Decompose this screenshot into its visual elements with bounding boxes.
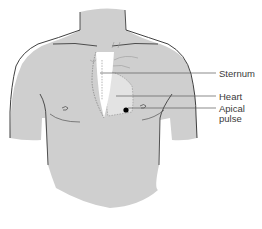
- sternum-label: Sternum: [219, 69, 255, 79]
- heart-label: Heart: [219, 92, 242, 102]
- apical-pulse-dot: [123, 107, 128, 112]
- apical-pulse-label: Apical pulse: [219, 104, 259, 124]
